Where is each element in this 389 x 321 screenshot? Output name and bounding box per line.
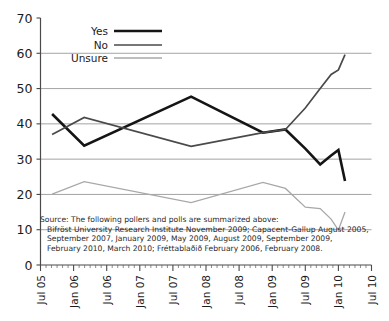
x-tick-label-0: Jul 05 (35, 275, 47, 305)
legend-label-yes: Yes (90, 25, 108, 37)
source-line-1: Bifröst University Research Institute No… (47, 225, 369, 234)
legend-label-no: No (94, 39, 108, 51)
poll-line-chart: 010203040506070Jul 05Jan 06Jul 06Jan 07J… (0, 0, 389, 321)
x-tick-label-1: Jan 06 (68, 275, 80, 309)
chart-canvas: 010203040506070Jul 05Jan 06Jul 06Jan 07J… (0, 0, 389, 321)
x-tick-label-9: Jan 10 (332, 275, 344, 309)
y-tick-label-60: 60 (17, 46, 33, 61)
x-tick-label-8: Jul 09 (299, 275, 311, 305)
x-tick-label-10: Jul 10 (366, 275, 378, 305)
series-line-yes (52, 97, 345, 181)
x-tick-label-4: Jul 07 (167, 275, 179, 305)
legend-label-unsure: Unsure (71, 52, 108, 64)
y-tick-label-30: 30 (17, 152, 33, 167)
y-tick-label-50: 50 (17, 81, 33, 96)
x-tick-label-6: Jul 08 (233, 275, 245, 305)
x-tick-label-2: Jul 06 (101, 275, 113, 306)
y-tick-label-0: 0 (25, 258, 33, 273)
x-tick-label-7: Jan 09 (266, 275, 278, 309)
source-line-0: Source: The following pollers and polls … (40, 215, 279, 224)
x-tick-label-5: Jan 08 (200, 275, 212, 309)
x-tick-label-3: Jan 07 (134, 275, 146, 309)
source-line-2: September 2007, January 2009, May 2009, … (47, 234, 332, 243)
source-line-3: February 2010, March 2010; Fréttablaðið … (47, 244, 323, 253)
y-tick-label-20: 20 (17, 187, 33, 202)
y-tick-label-70: 70 (17, 11, 33, 26)
y-tick-label-40: 40 (17, 116, 33, 131)
y-tick-label-10: 10 (17, 222, 33, 237)
